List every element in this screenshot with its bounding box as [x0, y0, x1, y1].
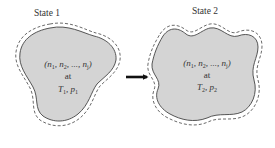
state-2-at-label: at [204, 70, 211, 80]
state-2-title: State 2 [192, 6, 218, 16]
state-2-group: State 2 (n1, n2, ..., nj) at T2, p2 [148, 6, 262, 125]
state-1-composition: (n1, n2, ..., nj) [44, 59, 91, 70]
state-2-conditions: T2, p2 [197, 82, 217, 93]
state-2-composition: (n1, n2, ..., nj) [183, 58, 230, 69]
state-1-group: State 1 (n1, n2, ..., nj) at T1, p1 [16, 8, 120, 126]
process-diagram: State 1 (n1, n2, ..., nj) at T1, p1 Stat… [0, 0, 275, 148]
diagram-svg: State 1 (n1, n2, ..., nj) at T1, p1 Stat… [0, 0, 275, 148]
state-1-at-label: at [65, 71, 72, 81]
state-1-conditions: T1, p1 [58, 84, 78, 95]
state-1-title: State 1 [34, 8, 60, 18]
